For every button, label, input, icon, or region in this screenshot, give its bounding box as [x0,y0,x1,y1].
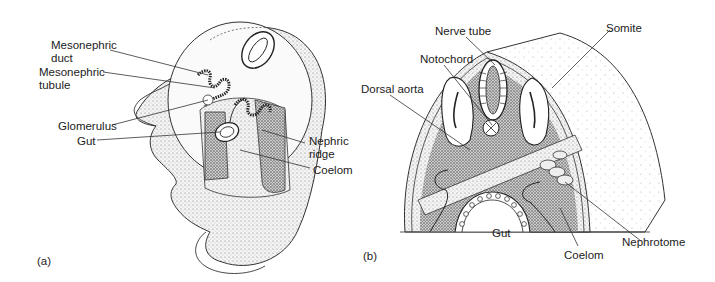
label-coelom-b: Coelom [564,249,604,262]
label-coelom-a: Coelom [313,164,353,177]
panel-a-illustration [97,22,326,274]
label-nephric-ridge: Nephric ridge [309,135,349,161]
label-mesonephric-tubule-line1: Mesonephric [39,66,105,79]
label-somite: Somite [606,22,642,35]
panel-a-tag: (a) [37,255,51,267]
label-nephrotome: Nephrotome [622,236,685,249]
label-glomerulus: Glomerulus [58,120,117,133]
label-nephric-ridge-line2: ridge [309,148,349,161]
label-gut-b: Gut [492,227,511,240]
label-nerve-tube: Nerve tube [435,25,491,38]
embryo-kidney-development-figure: Mesonephric duct Mesonephric tubule Glom… [0,0,715,282]
label-notochord: Notochord [420,53,473,66]
label-gut-a: Gut [77,135,96,148]
label-nephric-ridge-line1: Nephric [309,135,349,148]
label-mesonephric-tubule-line2: tubule [39,79,105,92]
panel-b-tag: (b) [363,250,377,262]
label-mesonephric-duct-line2: duct [51,52,117,65]
label-mesonephric-duct: Mesonephric duct [51,39,117,65]
label-mesonephric-duct-line1: Mesonephric [51,39,117,52]
label-mesonephric-tubule: Mesonephric tubule [39,66,105,92]
label-dorsal-aorta: Dorsal aorta [361,83,424,96]
